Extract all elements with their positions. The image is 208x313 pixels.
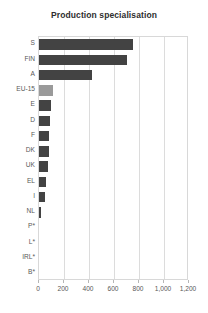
x-tick-label-400: 400 [82, 285, 93, 292]
y-tick-label-a: A [0, 70, 35, 77]
bar-row [39, 222, 187, 232]
y-tick-label-bstar: B* [0, 268, 35, 275]
bar-el[interactable] [39, 177, 46, 187]
bar-row [39, 100, 187, 110]
bar-row [39, 39, 187, 49]
bar-row [39, 207, 187, 217]
y-tick-label-lstar: L* [0, 238, 35, 245]
bar-eu-15[interactable] [39, 85, 53, 95]
bar-row [39, 192, 187, 202]
bar-s[interactable] [39, 39, 133, 49]
bar-f[interactable] [39, 131, 49, 141]
bar-row [39, 131, 187, 141]
x-tick-label-200: 200 [57, 285, 68, 292]
bar-row [39, 253, 187, 263]
bar-uk[interactable] [39, 161, 48, 171]
chart-title: Production specialisation [0, 10, 208, 20]
y-tick-label-s: S [0, 39, 35, 46]
y-tick-label-pstar: P* [0, 222, 35, 229]
bars-layer [39, 37, 187, 279]
x-tick-label-800: 800 [132, 285, 143, 292]
x-axis: 02004006008001,0001,200 [38, 280, 188, 308]
bar-row [39, 177, 187, 187]
y-tick-label-i: I [0, 192, 35, 199]
y-axis-labels: SFINAEU-15EDFDKUKELINLP*L*IRL*B* [0, 36, 35, 280]
bar-d[interactable] [39, 116, 50, 126]
y-tick-label-eu-15: EU-15 [0, 85, 35, 92]
y-tick-label-fin: FIN [0, 55, 35, 62]
x-tick-label-1200: 1,200 [180, 285, 197, 292]
x-tick-label-600: 600 [107, 285, 118, 292]
bar-row [39, 238, 187, 248]
y-tick-label-nl: NL [0, 207, 35, 214]
bar-row [39, 146, 187, 156]
bar-row [39, 85, 187, 95]
x-tick-mark [138, 280, 139, 283]
x-tick-mark [88, 280, 89, 283]
x-tick-mark [38, 280, 39, 283]
y-tick-label-d: D [0, 116, 35, 123]
x-tick-mark [63, 280, 64, 283]
y-tick-label-f: F [0, 131, 35, 138]
x-tick-label-0: 0 [36, 285, 40, 292]
bar-nl[interactable] [39, 207, 41, 217]
x-tick-mark [163, 280, 164, 283]
bar-fin[interactable] [39, 55, 127, 65]
chart-figure: Production specialisation SFINAEU-15EDFD… [0, 0, 208, 313]
y-tick-label-dk: DK [0, 146, 35, 153]
bar-i[interactable] [39, 192, 45, 202]
bar-row [39, 70, 187, 80]
plot-area [38, 36, 188, 280]
y-tick-label-uk: UK [0, 161, 35, 168]
bar-row [39, 55, 187, 65]
bar-row [39, 268, 187, 278]
x-tick-label-1000: 1,000 [155, 285, 172, 292]
bar-a[interactable] [39, 70, 92, 80]
bar-row [39, 161, 187, 171]
y-tick-label-el: EL [0, 177, 35, 184]
bar-e[interactable] [39, 100, 51, 110]
y-tick-label-irlstar: IRL* [0, 253, 35, 260]
y-tick-label-e: E [0, 100, 35, 107]
bar-dk[interactable] [39, 146, 49, 156]
bar-row [39, 116, 187, 126]
x-tick-mark [188, 280, 189, 283]
x-tick-mark [113, 280, 114, 283]
